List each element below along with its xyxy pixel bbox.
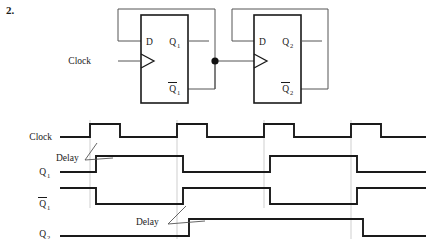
- timing-annotation-delay-1: Delay: [56, 153, 79, 163]
- timing-annotation-delay-2-leader: [168, 206, 205, 224]
- figure-root: 2. D Q 1 Q 1 D: [0, 0, 426, 239]
- timing-label-q2-subscript: 2: [47, 234, 50, 239]
- timing-label-clock: Clock: [29, 132, 52, 142]
- timing-annotation-delay-2: Delay: [136, 217, 159, 227]
- waveform-clock: [60, 124, 426, 137]
- timing-label-q1: Q: [39, 167, 46, 177]
- waveform-q1: [60, 156, 426, 172]
- timing-label-q1bar-subscript: 1: [47, 204, 50, 211]
- timing-annotation-delay-1-leader: [85, 143, 113, 160]
- timing-diagram: Clock Q 1 Delay Q 1 Q 2 Delay: [0, 0, 426, 239]
- timing-label-q1-subscript: 1: [47, 172, 50, 179]
- waveform-q2: [60, 219, 426, 236]
- waveform-q1bar: [60, 188, 426, 204]
- timing-label-q2: Q: [39, 229, 46, 239]
- timing-label-q1bar: Q: [39, 199, 46, 209]
